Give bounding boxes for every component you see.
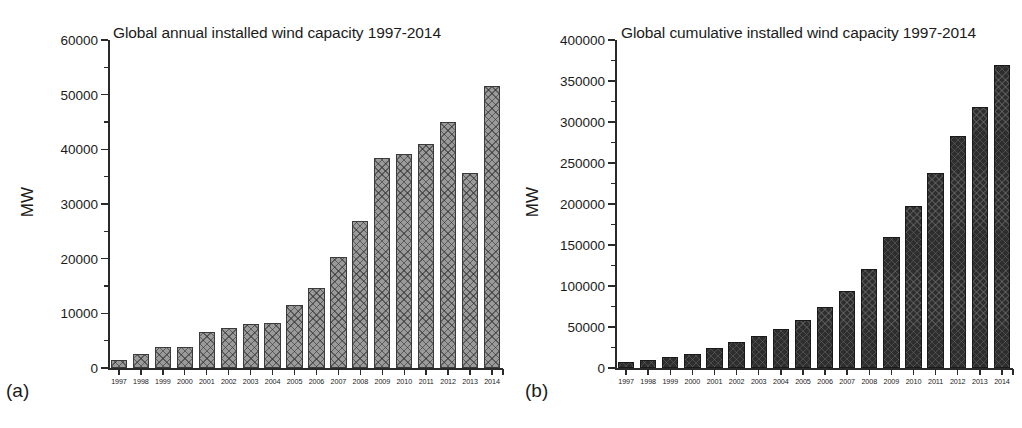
y-axis-tick-label: 0: [46, 361, 98, 376]
y-axis-major-tick: [608, 244, 615, 245]
y-axis-label-a: MW: [18, 172, 38, 232]
y-axis-tick-label: 250000: [549, 156, 605, 171]
x-axis-tick-label: 2012: [440, 377, 456, 386]
y-axis-minor-tick: [611, 306, 615, 307]
x-axis-tick-label: 1997: [618, 377, 634, 386]
x-axis-tick: [206, 369, 207, 375]
y-axis-tick-label: 50000: [549, 320, 605, 335]
x-axis-tick-label: 2010: [906, 377, 922, 386]
x-axis-tick-label: 2007: [839, 377, 855, 386]
y-axis-tick-label: 150000: [549, 238, 605, 253]
bar-2002: [728, 342, 744, 368]
x-axis-tick: [846, 369, 847, 375]
y-axis-line: [108, 40, 110, 368]
x-axis-end-tick: [1012, 369, 1013, 375]
y-axis-label-b: MW: [523, 172, 543, 232]
x-axis-tick: [382, 369, 383, 375]
x-axis-tick: [316, 369, 317, 375]
bar-1999: [155, 347, 171, 368]
y-axis-tick-label: 20000: [46, 251, 98, 266]
x-axis-tick: [758, 369, 759, 375]
y-axis-major-tick: [608, 203, 615, 204]
y-axis-major-tick: [101, 313, 108, 314]
bar-1997: [111, 360, 127, 368]
x-axis-tick: [979, 369, 980, 375]
x-axis-tick-label: 2006: [309, 377, 325, 386]
bar-2006: [308, 288, 324, 368]
y-axis-minor-tick: [104, 231, 108, 232]
x-axis-tick-label: 2006: [817, 377, 833, 386]
x-axis-tick: [935, 369, 936, 375]
x-axis-tick-label: 2001: [707, 377, 723, 386]
bar-2004: [773, 329, 789, 368]
bar-2001: [706, 348, 722, 368]
x-axis-end-tick: [502, 369, 503, 375]
y-axis-tick-label: 0: [549, 361, 605, 376]
y-axis-major-tick: [101, 203, 108, 204]
bar-2002: [221, 328, 237, 368]
x-axis-tick-label: 2002: [221, 377, 237, 386]
y-axis-minor-tick: [611, 60, 615, 61]
bar-2003: [243, 324, 259, 368]
y-axis-tick-label: 40000: [46, 142, 98, 157]
x-axis-tick-label: 2001: [199, 377, 215, 386]
x-axis-tick-label: 1997: [111, 377, 127, 386]
y-axis-major-tick: [608, 121, 615, 122]
x-axis-tick: [338, 369, 339, 375]
x-axis-tick-label: 2010: [396, 377, 412, 386]
x-axis-tick: [692, 369, 693, 375]
x-axis-tick: [184, 369, 185, 375]
x-axis-tick-label: 2008: [353, 377, 369, 386]
x-axis-tick-label: 1999: [662, 377, 678, 386]
x-axis-tick: [824, 369, 825, 375]
x-axis-tick: [425, 369, 426, 375]
x-axis-tick-label: 2004: [773, 377, 789, 386]
bar-2009: [883, 237, 899, 368]
y-axis-minor-tick: [611, 224, 615, 225]
bar-2010: [396, 154, 412, 368]
x-axis-tick: [250, 369, 251, 375]
y-axis-minor-tick: [611, 142, 615, 143]
x-axis-tick: [670, 369, 671, 375]
bar-2013: [462, 173, 478, 368]
bar-1998: [133, 354, 149, 368]
y-axis-minor-tick: [611, 347, 615, 348]
y-axis-minor-tick: [611, 265, 615, 266]
x-axis-tick-label: 1998: [133, 377, 149, 386]
wind-capacity-figure: Global annual installed wind capacity 19…: [0, 0, 1022, 428]
y-axis-major-tick: [101, 94, 108, 95]
y-axis-major-tick: [608, 39, 615, 40]
y-axis-tick-label: 50000: [46, 87, 98, 102]
bar-2004: [264, 323, 280, 368]
bar-1998: [640, 360, 656, 368]
panel-letter-b: (b): [525, 380, 548, 402]
y-axis-tick-label: 350000: [549, 74, 605, 89]
x-axis-tick: [869, 369, 870, 375]
x-axis-tick-label: 2009: [375, 377, 391, 386]
y-axis-minor-tick: [104, 176, 108, 177]
y-axis-minor-tick: [104, 67, 108, 68]
bar-1999: [662, 357, 678, 368]
y-axis-minor-tick: [104, 340, 108, 341]
y-axis-major-tick: [101, 149, 108, 150]
y-axis-minor-tick: [611, 183, 615, 184]
x-axis-tick: [736, 369, 737, 375]
bar-2012: [440, 122, 456, 368]
x-axis-tick-label: 2011: [928, 377, 943, 386]
x-axis-tick: [891, 369, 892, 375]
bar-2012: [950, 136, 966, 368]
y-axis-line: [615, 40, 617, 368]
x-axis-tick-label: 2008: [861, 377, 877, 386]
x-axis-tick: [140, 369, 141, 375]
x-axis-tick-label: 2002: [729, 377, 745, 386]
x-axis-tick-label: 2011: [419, 377, 434, 386]
x-axis-tick: [360, 369, 361, 375]
bar-2013: [972, 107, 988, 368]
x-axis-tick: [272, 369, 273, 375]
bar-2011: [927, 173, 943, 368]
bar-2000: [177, 347, 193, 368]
x-axis-tick: [162, 369, 163, 375]
x-axis-tick: [780, 369, 781, 375]
x-axis-tick: [802, 369, 803, 375]
x-axis-tick: [294, 369, 295, 375]
